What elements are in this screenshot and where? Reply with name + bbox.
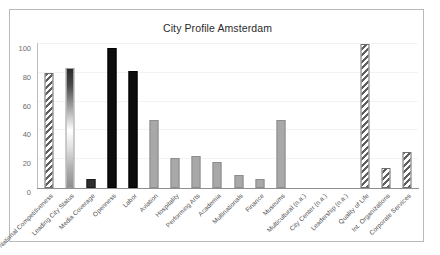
bar[interactable] bbox=[107, 48, 116, 188]
bar[interactable] bbox=[128, 71, 137, 188]
bar[interactable] bbox=[361, 44, 370, 188]
x-label-slot: Multinationals bbox=[228, 190, 249, 242]
x-label-slot: Performing Arts bbox=[186, 190, 207, 242]
x-axis-tick-label: Labor bbox=[121, 192, 138, 209]
bar-slot[interactable] bbox=[249, 44, 270, 188]
bars-group bbox=[38, 44, 418, 188]
bar[interactable] bbox=[86, 179, 95, 188]
bar[interactable] bbox=[234, 175, 243, 188]
bar-slot[interactable] bbox=[59, 44, 80, 188]
bar-slot[interactable] bbox=[397, 44, 418, 188]
x-label-slot: Labor bbox=[122, 190, 143, 242]
bar-slot[interactable] bbox=[334, 44, 355, 188]
bar-slot[interactable] bbox=[38, 44, 59, 188]
bar-slot[interactable] bbox=[144, 44, 165, 188]
bar[interactable] bbox=[192, 156, 201, 188]
x-label-slot: Aviation bbox=[144, 190, 165, 242]
bar-slot[interactable] bbox=[355, 44, 376, 188]
plot-area bbox=[38, 44, 418, 188]
bar[interactable] bbox=[213, 162, 222, 188]
bar-slot[interactable] bbox=[101, 44, 122, 188]
bar-slot[interactable] bbox=[186, 44, 207, 188]
bar-slot[interactable] bbox=[165, 44, 186, 188]
x-label-slot: Media Coverage bbox=[80, 190, 101, 242]
bar[interactable] bbox=[171, 158, 180, 188]
bar-slot[interactable] bbox=[228, 44, 249, 188]
bar[interactable] bbox=[65, 68, 74, 188]
bar[interactable] bbox=[382, 168, 391, 188]
bar-slot[interactable] bbox=[80, 44, 101, 188]
x-label-slot: Corporate Services bbox=[397, 190, 418, 242]
bar-slot[interactable] bbox=[207, 44, 228, 188]
bar[interactable] bbox=[255, 179, 264, 188]
bar[interactable] bbox=[276, 120, 285, 188]
bar-slot[interactable] bbox=[291, 44, 312, 188]
bar-slot[interactable] bbox=[312, 44, 333, 188]
chart-frame: City Profile Amsterdam 020406080100 Nati… bbox=[9, 9, 424, 242]
bar-slot[interactable] bbox=[122, 44, 143, 188]
bar-slot[interactable] bbox=[270, 44, 291, 188]
x-label-slot: Finance bbox=[249, 190, 270, 242]
bar-slot[interactable] bbox=[376, 44, 397, 188]
x-label-slot: Openness bbox=[101, 190, 122, 242]
y-axis-tick-labels: 020406080100 bbox=[10, 44, 34, 188]
chart-title: City Profile Amsterdam bbox=[10, 22, 425, 34]
x-axis-tick-labels: National CompetitivenessLeading City Sta… bbox=[38, 190, 418, 242]
bar[interactable] bbox=[403, 152, 412, 188]
bar[interactable] bbox=[150, 120, 159, 188]
x-axis-line bbox=[37, 188, 419, 189]
bar[interactable] bbox=[44, 73, 53, 188]
